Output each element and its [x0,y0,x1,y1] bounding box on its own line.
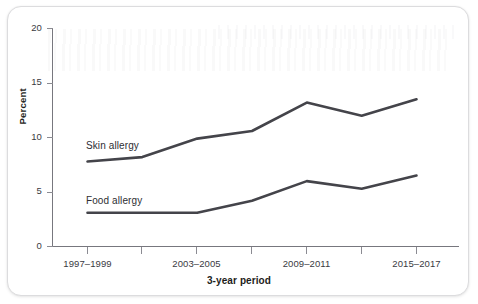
y-tick-label-10: 10 [22,131,42,142]
line-chart-svg [8,7,469,296]
figure-card: 20 15 10 5 0 1997–1999 2003–2005 2009–20… [7,6,469,296]
y-tick-label-0: 0 [22,240,42,251]
series-label-food-allergy: Food allergy [86,195,142,206]
x-tick-label-1997-1999: 1997–1999 [48,258,128,269]
x-tick-label-2003-2005: 2003–2005 [157,258,237,269]
y-axis-title: Percent [17,109,28,125]
x-axis-ticks [88,247,417,254]
x-axis-title: 3-year period [8,275,469,286]
series-label-skin-allergy: Skin allergy [86,140,139,151]
y-tick-label-15: 15 [22,76,42,87]
x-tick-label-2009-2011: 2009–2011 [267,258,347,269]
y-tick-label-5: 5 [22,185,42,196]
y-axis-ticks [47,29,53,247]
series-line-skin-allergy [88,99,417,161]
y-tick-label-20: 20 [22,22,42,33]
x-tick-label-2015-2017: 2015–2017 [377,258,457,269]
chart-plot-area: 20 15 10 5 0 1997–1999 2003–2005 2009–20… [8,7,469,296]
